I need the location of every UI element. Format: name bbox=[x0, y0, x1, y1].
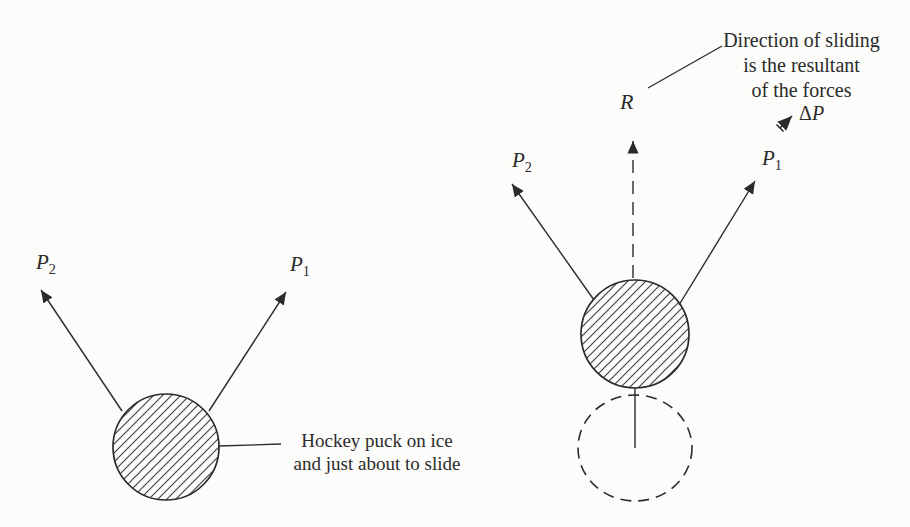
left-p2-label: P2 bbox=[36, 252, 56, 273]
right-p2-label: P2 bbox=[512, 150, 532, 171]
delta-p-label: ΔP bbox=[799, 103, 824, 123]
direction-annotation-line3: of the forces bbox=[698, 78, 905, 103]
right-force-p2-arrow bbox=[512, 184, 594, 300]
right-p1-label: P1 bbox=[762, 148, 782, 169]
left-puck-group bbox=[41, 290, 286, 500]
delta-p-arrow bbox=[777, 116, 793, 132]
left-puck-circle bbox=[113, 394, 219, 500]
direction-annotation-line1: Direction of sliding bbox=[698, 28, 905, 53]
left-puck-caption: Hockey puck on ice and just about to sli… bbox=[277, 429, 477, 475]
left-caption-leader-line bbox=[219, 444, 281, 446]
left-p1-label: P1 bbox=[290, 254, 310, 275]
left-puck-caption-line2: and just about to slide bbox=[277, 452, 477, 475]
left-force-p2-arrow bbox=[41, 290, 122, 411]
right-puck-group bbox=[512, 46, 792, 501]
left-force-p1-arrow bbox=[209, 292, 286, 411]
left-puck-caption-line1: Hockey puck on ice bbox=[277, 429, 477, 452]
direction-annotation-line2: is the resultant bbox=[698, 53, 905, 78]
figure-canvas: P2 P1 Hockey puck on ice and just about … bbox=[0, 0, 910, 527]
resultant-r-label: R bbox=[620, 91, 633, 113]
right-puck-circle bbox=[581, 280, 689, 388]
right-force-p1-arrow bbox=[679, 181, 755, 305]
direction-annotation: Direction of sliding is the resultant of… bbox=[698, 28, 905, 103]
